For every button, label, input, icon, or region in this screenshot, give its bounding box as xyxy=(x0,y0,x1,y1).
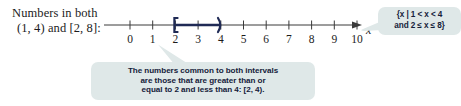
axis-label-4: 4 xyxy=(209,33,233,45)
axis-label-7: 7 xyxy=(277,33,301,45)
callout-note-line-1: The numbers common to both intervals xyxy=(95,66,311,76)
callout-set-notation: {x | 1 < x < 4 and 2 ≤ x ≤ 8} xyxy=(378,7,461,35)
callout-note-line-2: are those that are greater than or xyxy=(95,76,311,86)
callout-set-line-2: and 2 ≤ x ≤ 8} xyxy=(380,21,459,32)
callout-note-line-3: equal to 2 and less than 4: [2, 4). xyxy=(95,85,311,95)
axis-label-6: 6 xyxy=(254,33,278,45)
callout-set-line-1: {x | 1 < x < 4 xyxy=(380,10,459,21)
axis-label-8: 8 xyxy=(300,33,324,45)
axis-label-0: 0 xyxy=(118,33,142,45)
axis-label-5: 5 xyxy=(232,33,256,45)
axis-label-9: 9 xyxy=(322,33,346,45)
number-line: 0 1 2 3 4 5 6 7 8 9 10 xyxy=(104,14,366,50)
number-line-figure: Numbers in both (1, 4) and [2, 8]: xyxy=(0,0,461,106)
callout-explanation: The numbers common to both intervals are… xyxy=(91,62,315,100)
